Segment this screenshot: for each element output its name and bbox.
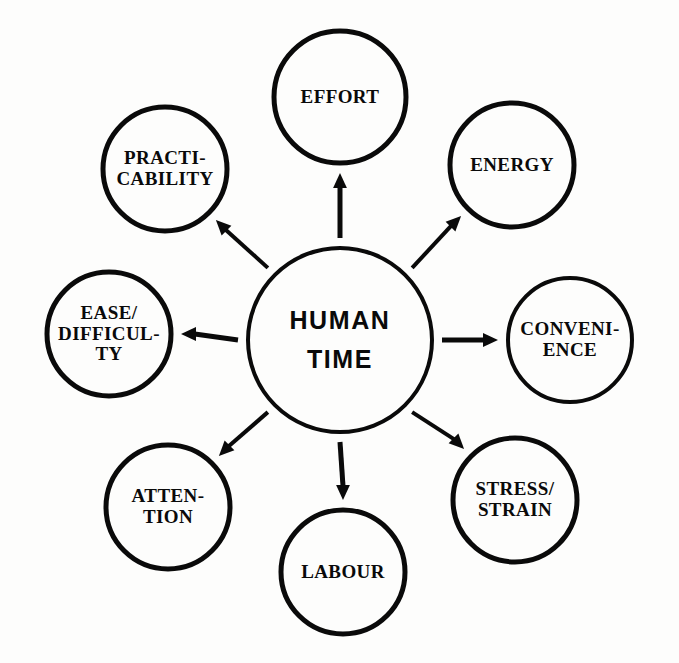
arrow-to-convenience: [442, 333, 498, 347]
arrow-to-effort: [333, 173, 347, 238]
arrow-to-energy: [412, 216, 461, 268]
node-circle-stress-strain[interactable]: [453, 438, 577, 562]
node-circle-energy[interactable]: [450, 103, 574, 227]
arrow-to-labour: [336, 442, 350, 500]
circle-layer: [47, 31, 632, 634]
diagram-graphics: [0, 0, 679, 663]
node-circle-convenience[interactable]: [508, 278, 632, 402]
node-circle-ease-difficulty[interactable]: [47, 272, 171, 396]
node-circle-labour[interactable]: [281, 510, 405, 634]
node-circle-attention[interactable]: [106, 445, 230, 569]
arrow-to-attention: [219, 412, 268, 456]
diagram-canvas: EFFORTENERGYCONVENI-ENCESTRESS/STRAINLAB…: [0, 0, 679, 663]
node-circle-human-time[interactable]: [248, 248, 432, 432]
node-circle-effort[interactable]: [274, 31, 406, 163]
arrow-to-practicability: [216, 220, 268, 268]
node-circle-practicability[interactable]: [103, 107, 227, 231]
arrow-to-ease-difficulty: [181, 327, 238, 341]
arrow-to-stress-strain: [412, 412, 464, 449]
